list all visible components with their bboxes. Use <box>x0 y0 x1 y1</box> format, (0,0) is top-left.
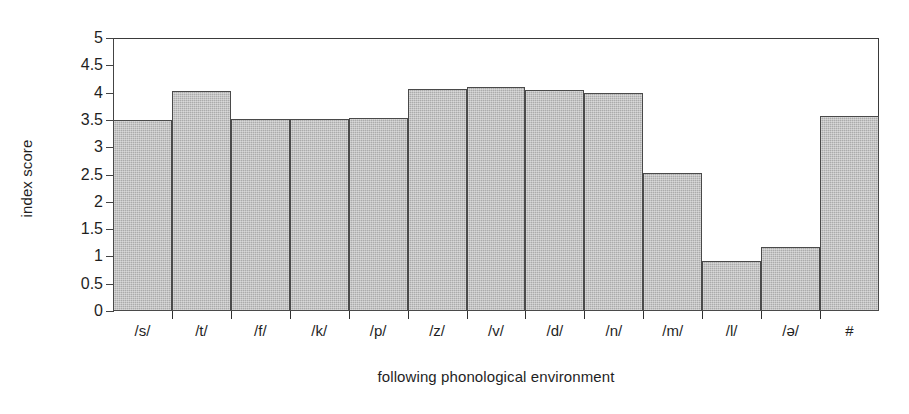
x-axis-tick-mark <box>408 310 409 319</box>
x-axis-tick-mark <box>467 310 468 319</box>
bar <box>702 261 761 311</box>
x-axis-category-label: # <box>820 322 879 339</box>
bar <box>643 173 702 311</box>
y-axis-tick-mark <box>106 311 114 312</box>
x-axis-category-label: /k/ <box>290 322 349 339</box>
x-axis-tick-mark <box>290 310 291 319</box>
x-axis-category-label: /s/ <box>113 322 172 339</box>
x-axis-category-label: /p/ <box>349 322 408 339</box>
x-axis-tick-mark <box>643 310 644 319</box>
x-axis-category-label: /f/ <box>231 322 290 339</box>
x-axis-tick-mark <box>702 310 703 319</box>
x-axis-category-label: /n/ <box>584 322 643 339</box>
bar <box>172 91 231 311</box>
x-axis-tick-mark <box>761 310 762 319</box>
bar <box>349 118 408 311</box>
y-axis-tick-label: 0.5 <box>81 275 103 293</box>
y-axis-tick-label: 4 <box>94 84 103 102</box>
y-axis-tick-mark <box>106 38 114 39</box>
y-axis-tick-mark <box>106 65 114 66</box>
x-axis-tick-mark <box>584 310 585 319</box>
plot-top-border <box>113 38 879 39</box>
plot-area: 00.511.522.533.544.55 <box>113 38 879 311</box>
y-axis-tick-label: 0 <box>94 302 103 320</box>
x-axis-tick-mark <box>820 310 821 319</box>
bar <box>761 247 820 311</box>
x-axis-category-label: /t/ <box>172 322 231 339</box>
y-axis-tick-label: 4.5 <box>81 56 103 74</box>
x-axis-tick-mark <box>349 310 350 319</box>
x-axis-category-label: /ə/ <box>761 322 820 339</box>
x-axis-tick-mark <box>525 310 526 319</box>
bar <box>467 87 526 311</box>
x-axis-category-label: /m/ <box>643 322 702 339</box>
x-axis-category-label: /l/ <box>702 322 761 339</box>
y-axis-tick-label: 5 <box>94 29 103 47</box>
y-axis-tick-label: 2 <box>94 193 103 211</box>
bar <box>584 93 643 311</box>
bar-chart-figure: index score 00.511.522.533.544.55 /s//t/… <box>0 0 909 414</box>
x-axis-title: following phonological environment <box>113 368 879 385</box>
bar <box>820 116 879 311</box>
x-axis-tick-mark <box>231 310 232 319</box>
bar <box>231 119 290 311</box>
x-axis-category-label: /z/ <box>408 322 467 339</box>
y-axis-tick-mark <box>106 93 114 94</box>
y-axis-tick-label: 3.5 <box>81 111 103 129</box>
y-axis-tick-label: 1.5 <box>81 220 103 238</box>
x-axis-tick-mark <box>172 310 173 319</box>
bar <box>113 120 172 311</box>
bar <box>408 89 467 311</box>
y-axis-tick-label: 1 <box>94 247 103 265</box>
bar <box>525 90 584 311</box>
y-axis-tick-label: 2.5 <box>81 166 103 184</box>
y-axis-tick-label: 3 <box>94 138 103 156</box>
bar <box>290 119 349 311</box>
x-axis-category-label: /v/ <box>467 322 526 339</box>
x-axis-category-label: /d/ <box>525 322 584 339</box>
y-axis-title: index score <box>18 109 35 249</box>
